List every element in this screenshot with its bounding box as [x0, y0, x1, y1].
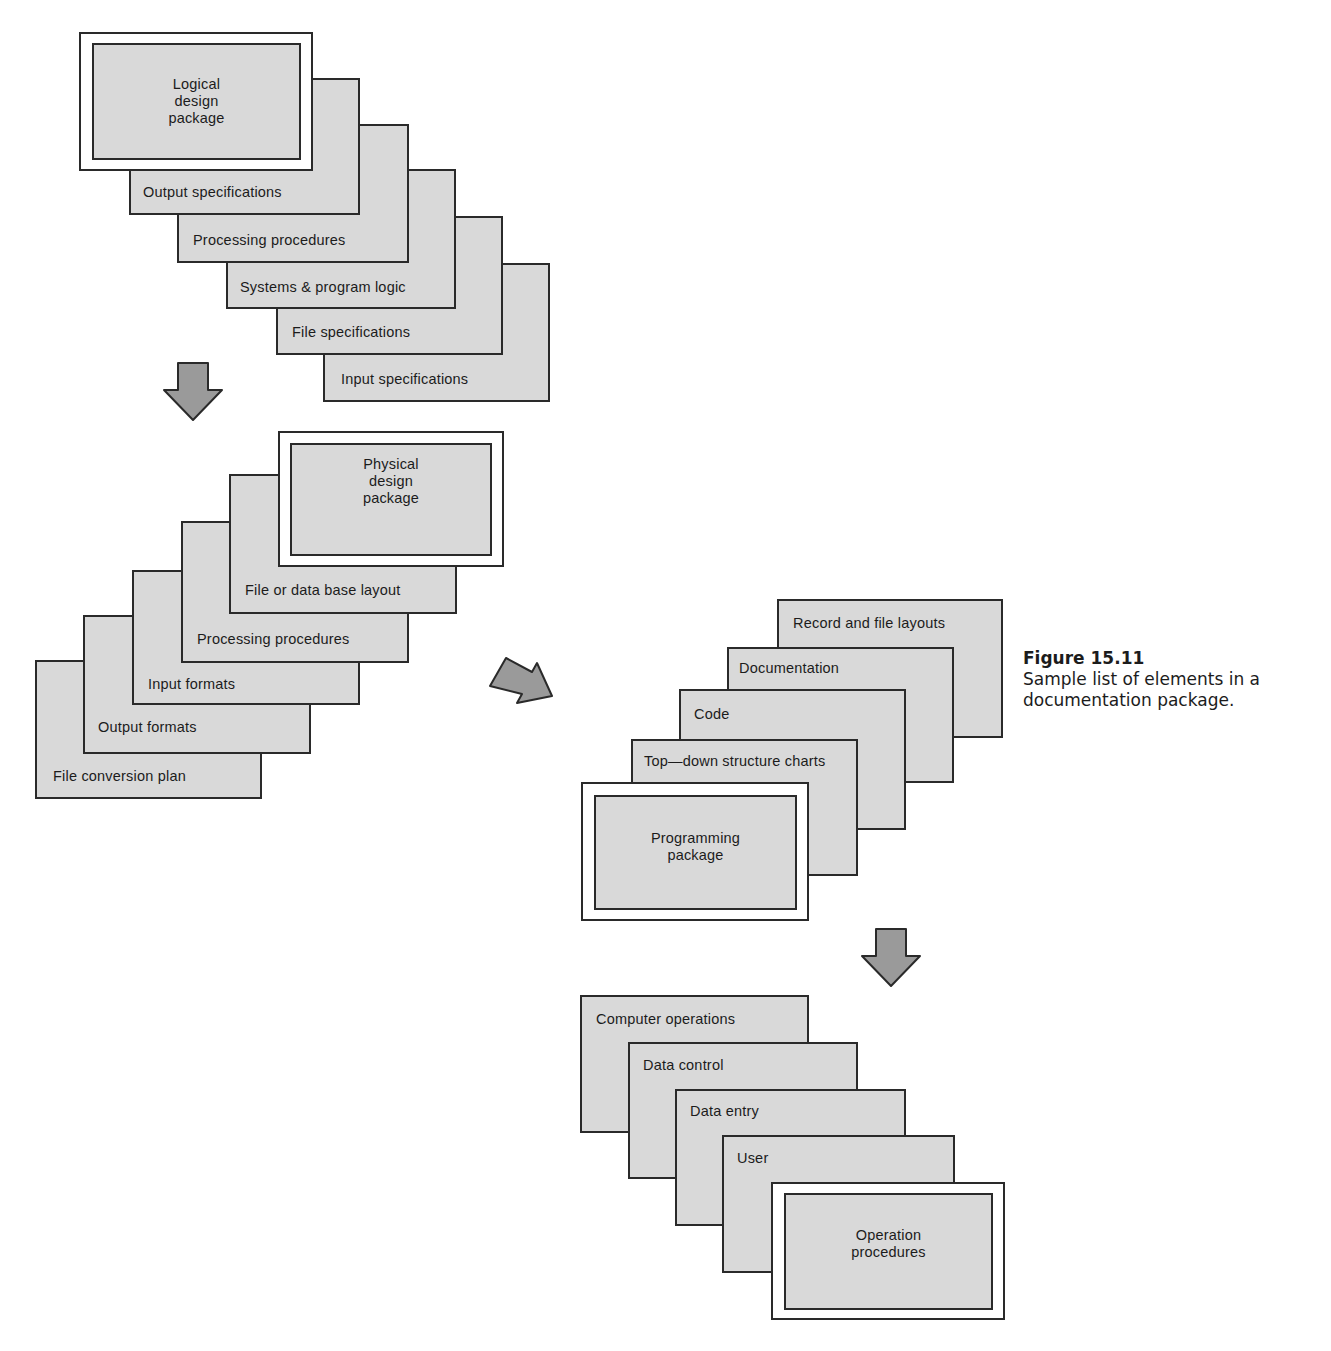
card-label: Record and file layouts	[793, 615, 945, 631]
card-label: Output specifications	[143, 184, 282, 200]
card-label: User	[737, 1150, 768, 1166]
card-label: Processing procedures	[197, 631, 350, 647]
logical-design-package: Logical design package	[79, 32, 313, 171]
figure-description: Sample list of elements in a documentati…	[1023, 669, 1323, 711]
card-label: Data control	[643, 1057, 724, 1073]
package-title: Operation procedures	[851, 1227, 926, 1261]
logical-design-package-inner: Logical design package	[92, 43, 301, 160]
card-label: Data entry	[690, 1103, 759, 1119]
card-label: Computer operations	[596, 1011, 735, 1027]
programming-package: Programming package	[581, 782, 809, 921]
operation-procedures-package-inner: Operation procedures	[784, 1193, 993, 1310]
card-label: Output formats	[98, 719, 197, 735]
arrow-down-right-icon	[486, 648, 558, 710]
package-title: Physical design package	[363, 456, 419, 507]
card-label: Systems & program logic	[240, 279, 406, 295]
card-label: Documentation	[739, 660, 839, 676]
arrow-down-icon	[160, 360, 226, 424]
card-label: Input formats	[148, 676, 235, 692]
arrow-down-icon	[858, 926, 924, 990]
physical-design-package: Physical design package	[278, 431, 504, 567]
card-label: Code	[694, 706, 729, 722]
card-label: File conversion plan	[53, 768, 186, 784]
card-label: File or data base layout	[245, 582, 401, 598]
figure-caption: Figure 15.11 Sample list of elements in …	[1023, 648, 1323, 711]
card-label: File specifications	[292, 324, 410, 340]
package-title: Programming package	[651, 830, 740, 864]
card-label: Input specifications	[341, 371, 468, 387]
programming-package-inner: Programming package	[594, 795, 797, 910]
card-label: Processing procedures	[193, 232, 346, 248]
card-label: Top—down structure charts	[644, 753, 826, 769]
operation-procedures-package: Operation procedures	[771, 1182, 1005, 1320]
physical-design-package-inner: Physical design package	[290, 443, 492, 556]
package-title: Logical design package	[168, 76, 224, 127]
figure-number: Figure 15.11	[1023, 648, 1323, 669]
